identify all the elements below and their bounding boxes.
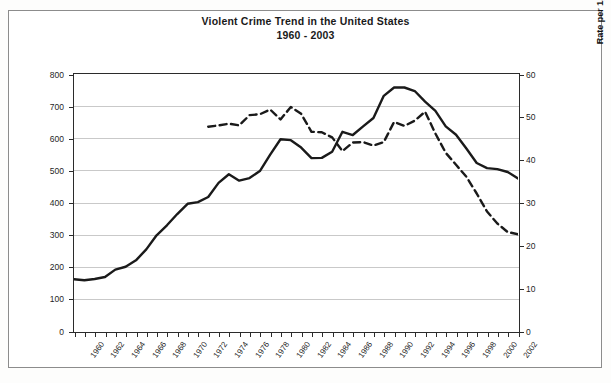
y-axis-right-tick-label: 60: [526, 70, 550, 80]
x-axis-tick-mark: [322, 333, 323, 337]
y-axis-left-tick-mark: [69, 235, 73, 236]
x-axis-tick-label: 1994: [439, 340, 457, 360]
x-axis-tick-mark: [436, 333, 437, 337]
x-axis-tick-label: 1978: [274, 340, 292, 360]
y-axis-left-tick-label: 500: [28, 166, 64, 176]
x-axis-tick-mark: [240, 333, 241, 337]
x-axis-tick-mark: [209, 333, 210, 337]
y-axis-right-tick-label: 50: [526, 112, 550, 122]
x-axis-tick-mark: [457, 333, 458, 337]
x-axis-tick-label: 1996: [460, 340, 478, 360]
x-axis-tick-label: 1960: [88, 340, 106, 360]
x-axis-tick-mark: [260, 333, 261, 337]
x-axis-tick-mark: [188, 333, 189, 337]
x-axis-tick-mark: [229, 333, 230, 337]
x-axis-ticks: 1960196219641966196819701972197419761978…: [73, 333, 520, 383]
y-axis-right-tick-mark: [520, 289, 524, 290]
x-axis-tick-mark: [488, 333, 489, 337]
x-axis-tick-label: 2000: [501, 340, 519, 360]
x-axis-tick-mark: [467, 333, 468, 337]
x-axis-tick-mark: [426, 333, 427, 337]
y-axis-right-tick-label: 0: [526, 327, 550, 337]
series-line-ucr: [74, 87, 518, 280]
y-axis-left-tick-label: 600: [28, 134, 64, 144]
x-axis-tick-mark: [384, 333, 385, 337]
x-axis-tick-mark: [198, 333, 199, 337]
y-axis-right-tick-mark: [520, 160, 524, 161]
x-axis-tick-mark: [446, 333, 447, 337]
y-axis-left-tick-mark: [69, 139, 73, 140]
x-axis-tick-label: 1992: [418, 340, 436, 360]
x-axis-tick-mark: [250, 333, 251, 337]
y-axis-left-tick-mark: [69, 75, 73, 76]
y-axis-right-tick-label: 30: [526, 198, 550, 208]
x-axis-tick-label: 1974: [233, 340, 251, 360]
x-axis-tick-mark: [302, 333, 303, 337]
x-axis-tick-mark: [178, 333, 179, 337]
x-axis-tick-mark: [415, 333, 416, 337]
x-axis-tick-mark: [147, 333, 148, 337]
y-axis-left-tick-mark: [69, 107, 73, 108]
y-axis-left-tick-label: 400: [28, 198, 64, 208]
x-axis-tick-mark: [364, 333, 365, 337]
x-axis-tick-label: 1980: [295, 340, 313, 360]
y-axis-right-tick-mark: [520, 332, 524, 333]
y-axis-left-tick-mark: [69, 267, 73, 268]
chart-title-line-2: 1960 - 2003: [0, 28, 611, 42]
x-axis-tick-mark: [519, 333, 520, 337]
x-axis-tick-mark: [395, 333, 396, 337]
x-axis-tick-mark: [137, 333, 138, 337]
x-axis-tick-mark: [95, 333, 96, 337]
y-axis-left-tick-label: 700: [28, 102, 64, 112]
x-axis-tick-label: 1988: [377, 340, 395, 360]
y-axis-left-tick-label: 100: [28, 294, 64, 304]
y-axis-right-tick-label: 20: [526, 241, 550, 251]
x-axis-tick-mark: [405, 333, 406, 337]
y-axis-left-tick-label: 0: [28, 327, 64, 337]
x-axis-tick-mark: [312, 333, 313, 337]
x-axis-tick-label: 1970: [191, 340, 209, 360]
x-axis-tick-mark: [85, 333, 86, 337]
x-axis-tick-mark: [508, 333, 509, 337]
x-axis-tick-label: 1982: [315, 340, 333, 360]
x-axis-tick-mark: [106, 333, 107, 337]
x-axis-tick-mark: [219, 333, 220, 337]
y-axis-right-tick-mark: [520, 246, 524, 247]
x-axis-tick-mark: [271, 333, 272, 337]
x-axis-tick-label: 1990: [398, 340, 416, 360]
plot-area: [73, 73, 520, 333]
y-axis-right-tick-mark: [520, 75, 524, 76]
x-axis-tick-label: 1998: [480, 340, 498, 360]
y-axis-left-tick-label: 200: [28, 262, 64, 272]
x-axis-tick-mark: [75, 333, 76, 337]
y-axis-right-tick-mark: [520, 117, 524, 118]
y-axis-left-tick-label: 800: [28, 70, 64, 80]
x-axis-tick-label: 1966: [150, 340, 168, 360]
x-axis-tick-mark: [167, 333, 168, 337]
y-axis-left-tick-mark: [69, 171, 73, 172]
x-axis-tick-mark: [116, 333, 117, 337]
chart-title: Violent Crime Trend in the United States…: [0, 14, 611, 42]
y-axis-right-tick-label: 10: [526, 284, 550, 294]
x-axis-tick-mark: [343, 333, 344, 337]
y-axis-right-tick-label: 40: [526, 155, 550, 165]
x-axis-tick-label: 1984: [336, 340, 354, 360]
x-axis-tick-label: 1968: [171, 340, 189, 360]
chart-title-line-1: Violent Crime Trend in the United States: [0, 14, 611, 28]
y-axis-left-tick-mark: [69, 299, 73, 300]
x-axis-tick-mark: [126, 333, 127, 337]
y-axis-right-tick-mark: [520, 203, 524, 204]
chart-lines: [74, 74, 518, 331]
x-axis-tick-mark: [281, 333, 282, 337]
x-axis-tick-label: 1972: [212, 340, 230, 360]
x-axis-tick-mark: [353, 333, 354, 337]
x-axis-tick-mark: [498, 333, 499, 337]
y-axis-left-tick-mark: [69, 203, 73, 204]
x-axis-tick-mark: [477, 333, 478, 337]
x-axis-tick-mark: [157, 333, 158, 337]
x-axis-tick-label: 1986: [357, 340, 375, 360]
y-axis-left-tick-label: 300: [28, 230, 64, 240]
chart-page: Violent Crime Trend in the United States…: [0, 0, 611, 383]
x-axis-tick-mark: [291, 333, 292, 337]
x-axis-tick-label: 1962: [109, 340, 127, 360]
